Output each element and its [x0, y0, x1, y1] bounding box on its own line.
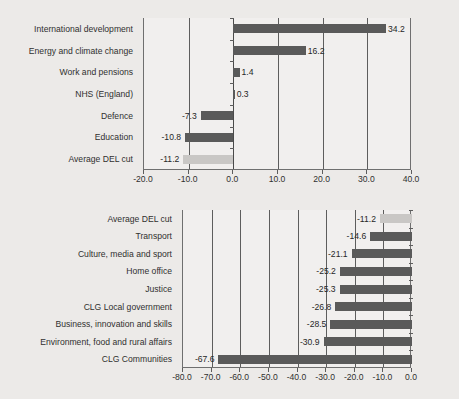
gridline	[269, 210, 270, 367]
bar-value-label: -25.3	[316, 285, 336, 294]
bar-value-label: 34.2	[388, 25, 405, 34]
category-label: Defence	[0, 112, 138, 121]
x-axis-tick	[239, 368, 240, 372]
x-axis-tick-label: 40.0	[403, 175, 420, 184]
category-label: Work and pensions	[0, 68, 138, 77]
x-axis-tick-label: -20.0	[344, 373, 364, 382]
x-axis-tick-label: -10.0	[373, 373, 393, 382]
bar-value-label: 16.2	[308, 47, 325, 56]
bar	[340, 285, 412, 294]
x-axis-tick	[182, 368, 183, 372]
gridline	[298, 210, 299, 367]
chart-top-plot-area	[143, 18, 411, 170]
bar	[185, 133, 233, 142]
bar-value-label: -7.3	[182, 112, 197, 121]
category-label: NHS (England)	[0, 90, 138, 99]
bar-value-label: -25.2	[316, 267, 336, 276]
x-axis-tick-label: -60.0	[229, 373, 249, 382]
bar	[324, 337, 412, 346]
bar-value-label: -30.9	[300, 338, 320, 347]
bar	[183, 155, 233, 164]
x-axis-tick	[232, 170, 233, 174]
chart-bottom: Average DEL cutTransportCulture, media a…	[0, 199, 459, 399]
category-axis-tick	[409, 315, 413, 316]
category-axis-tick	[230, 127, 234, 128]
gridline	[189, 18, 190, 169]
category-axis-tick	[409, 245, 413, 246]
bar-value-label: -21.1	[328, 250, 348, 259]
bar	[233, 24, 386, 33]
x-axis-tick	[188, 170, 189, 174]
figure-container: International developmentEnergy and clim…	[0, 0, 459, 399]
x-axis-tick	[297, 368, 298, 372]
gridline	[212, 210, 213, 367]
category-label: CLG Communities	[0, 355, 177, 364]
chart-bottom-plot-area	[182, 210, 411, 368]
x-axis-tick	[277, 170, 278, 174]
bar-value-label: -11.2	[160, 155, 179, 164]
bar-value-label: -67.6	[195, 355, 215, 364]
category-axis-tick	[409, 350, 413, 351]
bar-value-label: 0.3	[237, 90, 249, 99]
x-axis-tick-label: -40.0	[287, 373, 307, 382]
bar-value-label: -10.8	[161, 133, 181, 142]
x-axis-tick	[211, 368, 212, 372]
x-axis-tick-label: 0.0	[226, 175, 238, 184]
x-axis-tick	[322, 170, 323, 174]
category-label: Environment, food and rural affairs	[0, 338, 177, 347]
gridline	[240, 210, 241, 367]
bar	[340, 267, 412, 276]
x-axis-tick-label: -10.0	[178, 175, 198, 184]
category-axis-tick	[409, 298, 413, 299]
category-label: Average DEL cut	[0, 215, 177, 224]
x-axis-tick	[325, 368, 326, 372]
bar	[233, 68, 239, 77]
category-label: Energy and climate change	[0, 47, 138, 56]
bar	[218, 355, 412, 364]
bar	[233, 46, 305, 55]
x-axis-tick-label: 30.0	[358, 175, 375, 184]
x-axis-tick-label: -30.0	[315, 373, 335, 382]
x-axis-tick-label: -20.0	[133, 175, 153, 184]
chart-top: International developmentEnergy and clim…	[0, 0, 459, 200]
bar-value-label: -26.8	[312, 303, 332, 312]
bar-value-label: -28.5	[307, 320, 327, 329]
category-label: Business, innovation and skills	[0, 320, 177, 329]
x-axis-tick	[268, 368, 269, 372]
x-axis-tick	[143, 170, 144, 174]
bar-value-label: -14.6	[347, 232, 367, 241]
bar	[233, 90, 235, 99]
bar-value-label: -11.2	[357, 215, 376, 224]
category-label: Justice	[0, 285, 177, 294]
x-axis-tick	[411, 170, 412, 174]
x-axis-tick-label: -70.0	[201, 373, 221, 382]
x-axis-tick	[366, 170, 367, 174]
x-axis-tick	[382, 368, 383, 372]
category-label: CLG Local government	[0, 303, 177, 312]
category-axis-tick	[409, 280, 413, 281]
category-axis-tick	[409, 263, 413, 264]
x-axis-tick-label: -80.0	[172, 373, 192, 382]
gridline	[278, 18, 279, 169]
category-label: Culture, media and sport	[0, 250, 177, 259]
x-axis-tick	[411, 368, 412, 372]
x-axis-tick-label: 10.0	[269, 175, 286, 184]
bar	[201, 111, 234, 120]
category-label: Education	[0, 133, 138, 142]
bar	[335, 302, 412, 311]
category-axis-tick	[409, 333, 413, 334]
x-axis-tick	[354, 368, 355, 372]
bar	[380, 214, 412, 223]
x-axis-tick-label: 0.0	[405, 373, 417, 382]
category-axis-tick	[230, 18, 234, 19]
bar-value-label: 1.4	[242, 68, 254, 77]
category-axis-tick	[409, 228, 413, 229]
bar	[352, 249, 412, 258]
bar	[370, 232, 412, 241]
category-axis-tick	[230, 40, 234, 41]
category-axis-tick	[230, 105, 234, 106]
category-axis-tick	[409, 210, 413, 211]
category-axis-tick	[230, 83, 234, 84]
category-label: Transport	[0, 232, 177, 241]
gridline	[323, 18, 324, 169]
